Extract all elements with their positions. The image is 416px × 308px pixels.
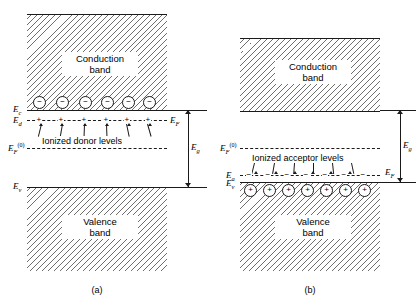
eg-label-b: Eg [403,140,412,152]
valence-band-line2-a: band [89,227,110,238]
ev-label-a: Ev [13,181,21,193]
ec-level-line-a [27,110,167,111]
eg-label-a: Eg [191,142,200,154]
electron-symbol: − [33,96,46,109]
conduction-band-label-b: Conduction band [275,60,351,84]
hole-symbol: + [358,184,371,197]
ef0-level-line-b [240,148,380,149]
acceptor-tick: − [265,171,271,179]
electron-symbol: − [79,96,92,109]
hole-symbol: + [244,184,257,197]
valence-band-label-a: Valence band [62,215,138,239]
leader-arrowhead [60,123,64,126]
panel-a-n-type: Conduction band − − − − − − Ec + + + + +… [0,0,208,308]
eg-arrow-line-b [400,110,401,182]
ef0-label-a: EF(0) [8,142,24,155]
leader-arrowhead [274,171,278,174]
electron-symbol: − [122,96,135,109]
leader-arrowhead [148,123,152,126]
hole-symbol: + [301,184,314,197]
acceptor-tick: − [341,171,347,179]
eg-bottom-rule-b [380,182,416,183]
hole-symbol: + [263,184,276,197]
eg-bottom-rule-a [167,187,207,188]
eg-arrowhead-down-b [397,178,403,182]
panel-caption-b: (b) [290,285,330,295]
conduction-band-label-a: Conduction band [62,52,138,76]
eg-arrow-line-a [188,110,189,187]
band-diagram-figure: Conduction band − − − − − − Ec + + + + +… [0,0,416,308]
hole-symbol: + [339,184,352,197]
leader-arrowhead [254,171,258,174]
ef0-label-b: EF(0) [220,142,236,155]
leader-arrowhead [348,171,352,174]
acceptor-tick: − [360,171,366,179]
ef-label-b: EF [385,167,394,179]
acceptor-tick: − [284,171,290,179]
ionized-donor-levels-caption: Ionized donor levels [40,136,124,146]
conduction-band-line2-a: band [89,64,110,75]
leader-arrowhead [311,171,315,174]
valence-band-line1-a: Valence [83,216,117,227]
acceptor-tick: − [246,171,252,179]
leader-arrowhead [293,171,297,174]
electron-symbol: − [56,96,69,109]
acceptor-tick: − [322,171,328,179]
panel-b-p-type: Conduction band EF(0) Ionized acceptor l… [208,0,416,308]
ed-label-a: Ed [13,115,22,127]
eg-arrowhead-up-b [397,110,403,114]
conduction-band-line1-a: Conduction [76,53,124,64]
leader-arrowhead [83,123,87,126]
ef0-level-line-a [27,148,167,149]
leader-arrowhead [39,123,43,126]
eg-arrowhead-up-a [185,110,191,114]
conduction-band-line1-b: Conduction [289,61,337,72]
hole-symbol: + [320,184,333,197]
ev-label-b: Ev [226,178,234,190]
leader-arrowhead [105,123,109,126]
conduction-band-line2-b: band [302,72,323,83]
ea-level-line-b [240,175,380,176]
electron-symbol: − [143,96,156,109]
eg-arrowhead-down-a [185,183,191,187]
acceptor-tick: − [303,171,309,179]
electron-symbol: − [101,96,114,109]
valence-band-line2-b: band [302,227,323,238]
valence-band-label-b: Valence band [275,215,351,239]
ionized-acceptor-levels-caption: Ionized acceptor levels [250,153,346,163]
valence-band-line1-b: Valence [296,216,330,227]
panel-caption-a: (a) [77,285,117,295]
hole-symbol: + [282,184,295,197]
leader-arrowhead [127,123,131,126]
ef-label-a: EF [170,115,179,127]
leader-arrowhead [329,171,333,174]
